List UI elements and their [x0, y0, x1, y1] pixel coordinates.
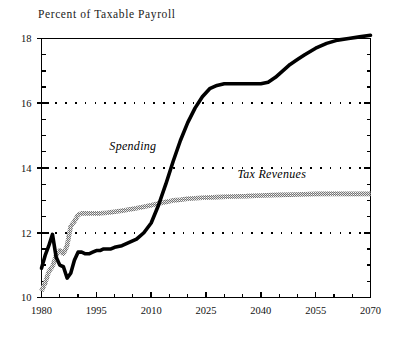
annotation-tax-revenues: Tax Revenues [237, 167, 306, 181]
x-tick-label: 2040 [250, 305, 271, 316]
y-tick-label: 18 [21, 33, 32, 44]
x-tick-label: 2025 [196, 305, 217, 316]
chart-figure: Percent of Taxable Payroll 1980199520102… [0, 0, 398, 344]
x-tick-label: 1980 [31, 305, 52, 316]
y-tick-label: 16 [21, 98, 32, 109]
x-tick-label: 2055 [305, 305, 326, 316]
y-tick-label: 10 [21, 292, 32, 303]
series-annotations: SpendingTax Revenues [109, 139, 306, 181]
x-axis-tick-labels: 1980199520102025204020552070 [31, 305, 381, 316]
annotation-spending: Spending [109, 139, 156, 153]
chart-plot: 1980199520102025204020552070 1012141618 … [0, 0, 398, 344]
x-tick-label: 1995 [86, 305, 107, 316]
series-tax-revenues [42, 194, 371, 291]
y-tick-label: 14 [21, 163, 32, 174]
x-tick-label: 2070 [360, 305, 381, 316]
y-tick-label: 12 [21, 228, 32, 239]
x-tick-label: 2010 [141, 305, 162, 316]
gridlines [46, 39, 369, 233]
series-spending [42, 35, 371, 278]
y-axis-tick-labels: 1012141618 [21, 33, 32, 303]
